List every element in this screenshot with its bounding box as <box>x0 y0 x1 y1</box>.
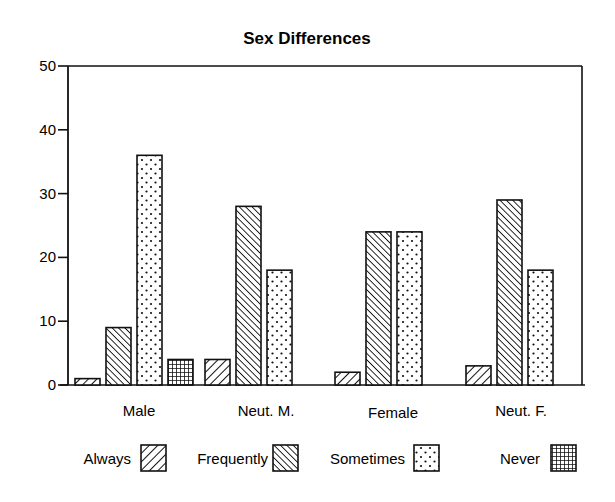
bar-sometimes-male <box>137 155 162 385</box>
y-tick-label: 40 <box>39 121 56 138</box>
bar-never-male <box>168 359 193 385</box>
y-axis: 01020304050 <box>39 57 68 393</box>
bar-frequently-female <box>366 232 391 385</box>
y-tick-label: 30 <box>39 185 56 202</box>
bar-always-female <box>335 372 360 385</box>
legend-swatch-sometimes <box>414 445 439 471</box>
legend-swatch-frequently <box>273 445 298 471</box>
bar-frequently-neut-f- <box>497 200 522 385</box>
bar-sometimes-neut-m- <box>267 270 292 385</box>
category-label: Male <box>123 402 156 419</box>
y-tick-label: 20 <box>39 248 56 265</box>
bar-always-male <box>75 379 100 385</box>
legend-swatch-never <box>551 445 576 471</box>
bars <box>75 155 553 385</box>
legend-label: Sometimes <box>330 450 405 467</box>
legend-label: Always <box>83 450 131 467</box>
category-label: Female <box>368 404 418 421</box>
category-label: Neut. M. <box>238 402 295 419</box>
legend-swatch-always <box>141 445 166 471</box>
bar-frequently-neut-m- <box>236 206 261 385</box>
bar-sometimes-female <box>397 232 422 385</box>
bar-chart: Sex Differences 01020304050 MaleNeut. M.… <box>0 0 615 502</box>
chart-title: Sex Differences <box>243 29 371 48</box>
legend-label: Frequently <box>197 450 268 467</box>
bar-frequently-male <box>106 328 131 385</box>
legend: AlwaysFrequentlySometimesNever <box>83 445 576 471</box>
category-label: Neut. F. <box>495 402 547 419</box>
bar-always-neut-m- <box>205 359 230 385</box>
bar-sometimes-neut-f- <box>528 270 553 385</box>
y-tick-label: 0 <box>48 376 56 393</box>
y-tick-label: 50 <box>39 57 56 74</box>
y-tick-label: 10 <box>39 312 56 329</box>
legend-label: Never <box>500 450 540 467</box>
x-axis-categories: MaleNeut. M.FemaleNeut. F. <box>123 402 547 421</box>
bar-always-neut-f- <box>466 366 491 385</box>
